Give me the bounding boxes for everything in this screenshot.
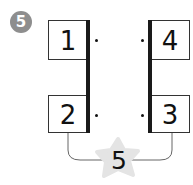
dot-top-left (95, 39, 98, 42)
dot-top-right (141, 39, 144, 42)
right-divider-bar (148, 20, 152, 133)
left-divider-bar (86, 20, 90, 133)
box-top-right: 4 (150, 20, 190, 60)
dot-bottom-left (95, 114, 98, 117)
dot-bottom-right (141, 114, 144, 117)
box-bottom-right: 3 (150, 95, 190, 133)
star-value: 5 (107, 146, 131, 175)
box-bottom-left: 2 (48, 95, 88, 133)
box-top-left: 1 (48, 20, 88, 60)
